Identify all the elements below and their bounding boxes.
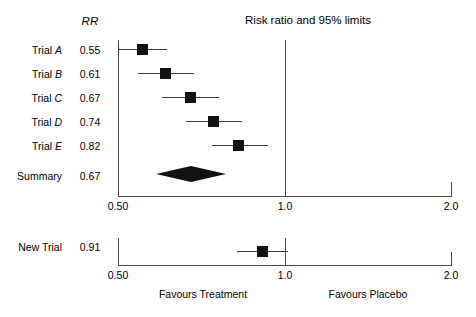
newtrial-tick-label-high: 2.0 xyxy=(430,269,472,281)
main-tick-label-high: 2.0 xyxy=(430,200,472,212)
row-label-prefix: Trial xyxy=(32,68,52,80)
newtrial-axis-right-tick xyxy=(451,252,452,266)
row-label-italic: A xyxy=(55,44,62,56)
newtrial-tick-label-low: 0.50 xyxy=(96,269,140,281)
newtrial-tick-label-mid: 1.0 xyxy=(264,269,306,281)
rr-value-trial-d: 0.74 xyxy=(65,116,115,128)
point-marker-trial-b xyxy=(160,68,171,79)
main-axis-left xyxy=(118,40,119,197)
rr-value-trial-e: 0.82 xyxy=(65,140,115,152)
rr-value-trial-b: 0.61 xyxy=(65,68,115,80)
chart-title: Risk ratio and 95% limits xyxy=(208,14,408,26)
row-label-prefix: Trial xyxy=(32,140,52,152)
main-tick-label-mid: 1.0 xyxy=(264,200,306,212)
row-label-new-trial: New Trial xyxy=(0,241,62,253)
row-label-trial-e: Trial E xyxy=(0,140,62,152)
point-marker-trial-a xyxy=(137,44,148,55)
main-axis-right-tick xyxy=(451,182,452,197)
main-tick-label-low: 0.50 xyxy=(96,200,140,212)
point-marker-trial-e xyxy=(233,140,244,151)
newtrial-reference-line xyxy=(285,238,286,266)
rr-column-header: RR xyxy=(65,15,115,27)
footer-label-favours-treatment: Favours Treatment xyxy=(143,288,263,300)
row-label-italic: E xyxy=(55,140,62,152)
row-label-italic: B xyxy=(55,68,62,80)
row-label-prefix: Trial xyxy=(31,116,51,128)
forest-plot-figure: RR Risk ratio and 95% limits Trial A 0.5… xyxy=(0,0,476,317)
main-reference-line xyxy=(285,40,286,197)
rr-value-trial-a: 0.55 xyxy=(65,44,115,56)
summary-diamond-marker xyxy=(156,165,226,183)
point-marker-new-trial xyxy=(257,246,268,257)
footer-label-favours-placebo: Favours Placebo xyxy=(310,288,426,300)
row-label-trial-b: Trial B xyxy=(0,68,62,80)
point-marker-trial-d xyxy=(208,116,219,127)
point-marker-trial-c xyxy=(185,92,196,103)
row-label-summary: Summary xyxy=(0,170,62,182)
row-label-prefix: Trial xyxy=(31,92,51,104)
row-label-italic: D xyxy=(54,116,62,128)
row-label-prefix: Trial xyxy=(32,44,52,56)
row-label-trial-a: Trial A xyxy=(0,44,62,56)
row-label-trial-c: Trial C xyxy=(0,92,62,104)
rr-value-summary: 0.67 xyxy=(65,170,115,182)
rr-value-trial-c: 0.67 xyxy=(65,92,115,104)
newtrial-axis-left xyxy=(118,238,119,266)
row-label-italic: C xyxy=(54,92,62,104)
row-label-trial-d: Trial D xyxy=(0,116,62,128)
ci-cap-left-trial-a xyxy=(118,45,119,54)
rr-value-new-trial: 0.91 xyxy=(65,241,115,253)
